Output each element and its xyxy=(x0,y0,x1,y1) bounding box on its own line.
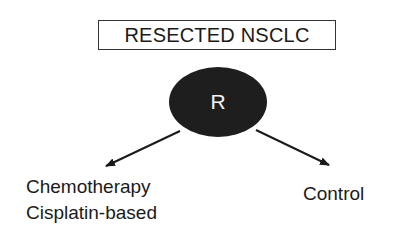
arm-chemotherapy-line2: Cisplatin-based xyxy=(26,200,157,226)
arm-chemotherapy-line1: Chemotherapy xyxy=(26,174,157,200)
arm-chemotherapy: Chemotherapy Cisplatin-based xyxy=(26,174,157,226)
randomization-letter: R xyxy=(210,90,225,114)
arm-control: Control xyxy=(303,181,364,207)
arm-control-line1: Control xyxy=(303,181,364,207)
randomization-label: R xyxy=(168,66,268,138)
